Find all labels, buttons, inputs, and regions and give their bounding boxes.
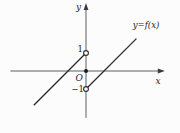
y-tick-label-neg1: −1 bbox=[71, 84, 84, 94]
open-point-0--1 bbox=[84, 87, 89, 92]
graph-canvas: y x O 1 −1 y=f(x) bbox=[0, 0, 180, 133]
function-graph-figure: y x O 1 −1 y=f(x) bbox=[0, 0, 180, 133]
y-axis-label: y bbox=[75, 2, 82, 12]
x-axis-arrowhead bbox=[158, 69, 165, 74]
curve-segment-right-branch bbox=[86, 39, 136, 89]
closed-point-0-0 bbox=[84, 69, 88, 73]
y-tick-label-pos1: 1 bbox=[78, 44, 83, 54]
curve-label: y=f(x) bbox=[132, 20, 160, 30]
y-axis-arrowhead bbox=[84, 3, 89, 10]
origin-label: O bbox=[76, 73, 84, 83]
open-point-0-1 bbox=[84, 51, 89, 56]
x-axis-label: x bbox=[155, 76, 160, 86]
